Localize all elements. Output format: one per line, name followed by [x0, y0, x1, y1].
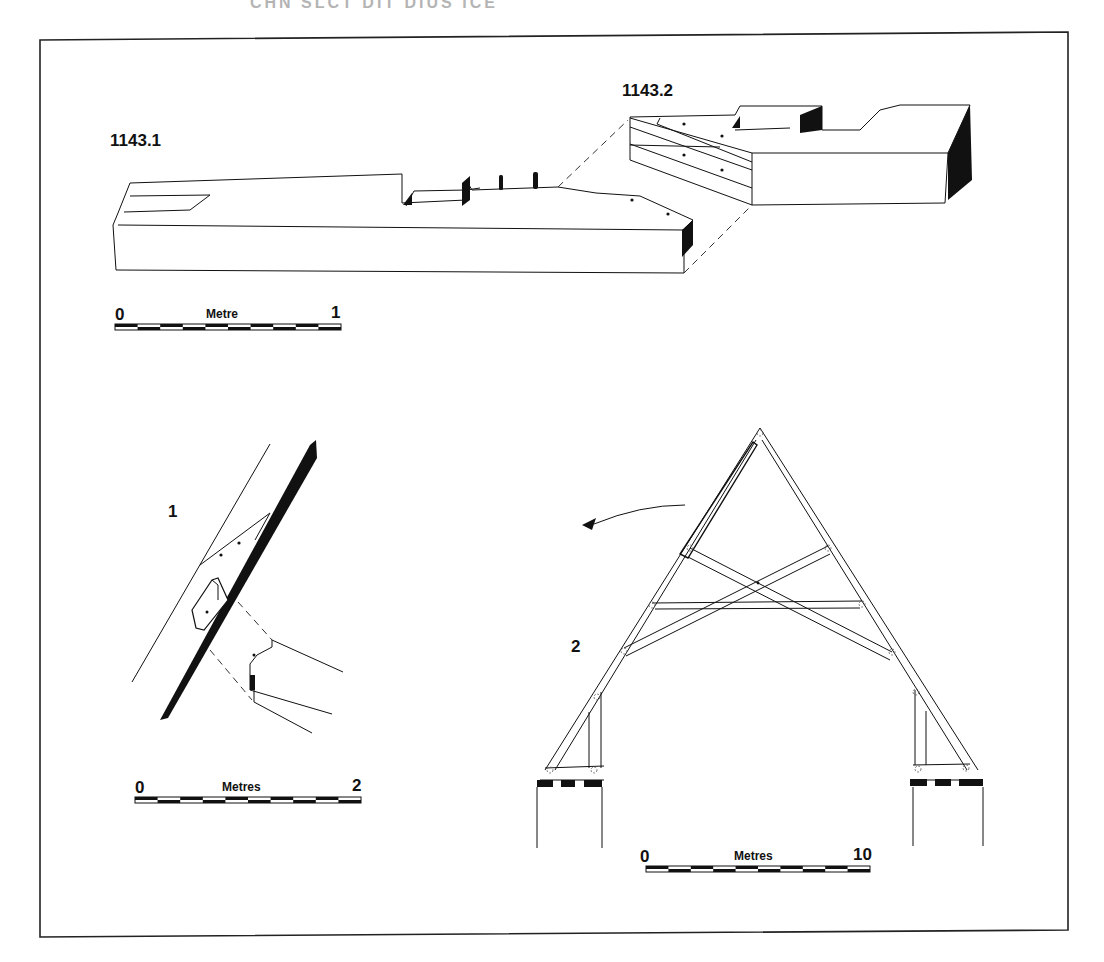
scale-start: 0 — [135, 778, 144, 797]
truss-wall-plates — [537, 518, 983, 787]
scale-bar-10-metres: 0 Metres 10 — [640, 845, 872, 872]
scale-title: Metre — [206, 307, 238, 321]
figure-canvas: 1143.1 1143.2 0 Metre — [0, 0, 1104, 962]
scale-title: Metres — [222, 780, 261, 794]
label-1143-2: 1143.2 — [622, 81, 673, 100]
crossing-peg — [757, 582, 760, 585]
label-truss-2: 2 — [571, 637, 580, 656]
scale-start: 0 — [115, 305, 124, 324]
scale-bar-2-metres: 0 Metres 2 — [135, 776, 361, 803]
scale-title: Metres — [734, 849, 773, 863]
scale-end: 2 — [352, 776, 361, 795]
scale-end: 10 — [853, 845, 872, 864]
timber-1143-1 — [113, 174, 693, 273]
timber-1143-1-shading — [403, 172, 693, 257]
scale-bar-1-metre: 0 Metre 1 — [115, 303, 341, 330]
label-detail-1: 1 — [168, 502, 177, 521]
label-1143-1: 1143.1 — [110, 131, 161, 150]
dashed-connector-lines — [558, 120, 752, 273]
joint-detail-1 — [132, 440, 343, 733]
scale-start: 0 — [640, 847, 649, 866]
scale-end: 1 — [331, 303, 340, 322]
